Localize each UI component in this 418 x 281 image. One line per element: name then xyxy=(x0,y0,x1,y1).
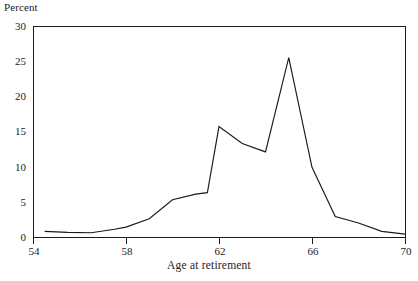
y-tick-label-20: 20 xyxy=(4,91,26,102)
x-axis-tick-marks xyxy=(34,238,406,244)
y-tick-label-25: 25 xyxy=(4,56,26,67)
x-tick-label-58: 58 xyxy=(112,246,142,257)
y-tick-label-15: 15 xyxy=(4,126,26,137)
x-tick-label-70: 70 xyxy=(391,246,418,257)
series-line-percent-retiring xyxy=(45,58,405,235)
x-axis-title: Age at retirement xyxy=(0,259,418,271)
x-tick-label-66: 66 xyxy=(298,246,328,257)
data-series-group xyxy=(45,58,405,235)
y-tick-label-0: 0 xyxy=(4,232,26,243)
chart-plot-area xyxy=(0,0,418,281)
y-tick-label-30: 30 xyxy=(4,21,26,32)
axis-frame xyxy=(34,27,406,238)
retirement-age-chart-figure: Percent 30 25 20 15 10 5 0 54 58 62 66 7… xyxy=(0,0,418,281)
x-tick-label-54: 54 xyxy=(19,246,49,257)
y-tick-label-10: 10 xyxy=(4,162,26,173)
x-tick-label-62: 62 xyxy=(205,246,235,257)
axis-frame-path xyxy=(34,27,406,238)
y-tick-label-5: 5 xyxy=(4,197,26,208)
